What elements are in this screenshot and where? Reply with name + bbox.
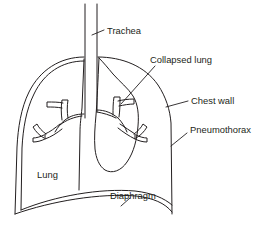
anatomy-illustration: Trachea Collapsed lung Chest wall Pneumo… — [0, 0, 265, 237]
label-trachea: Trachea — [107, 25, 142, 36]
collapsed-lung-outline — [95, 58, 139, 172]
trachea-leader — [92, 30, 104, 35]
label-lung: Lung — [37, 169, 58, 180]
left-lung-hilum — [60, 116, 82, 125]
left-lung-mediastinal-border — [79, 59, 84, 190]
label-diaphragm: Diaphragm — [110, 190, 156, 201]
left-lower-terminal-branch — [33, 135, 45, 142]
trachea-structure — [85, 4, 97, 118]
bronchial-tree-left — [33, 100, 84, 142]
pneumothorax-diagram: Trachea Collapsed lung Chest wall Pneumo… — [0, 0, 265, 237]
label-group: Trachea Collapsed lung Chest wall Pneumo… — [37, 25, 251, 201]
left-lung-structure — [60, 59, 84, 190]
label-pneumothorax: Pneumothorax — [190, 124, 251, 135]
label-collapsed-lung: Collapsed lung — [150, 54, 212, 65]
chest-wall-left-outer — [15, 57, 84, 214]
collapsed-lung-leader — [121, 66, 155, 104]
chest-wall-leader — [166, 101, 188, 107]
pneumothorax-leader — [171, 133, 187, 146]
right-upper-lobe-bronchus — [113, 97, 120, 117]
left-upper-lateral-branch — [47, 102, 63, 108]
label-chest-wall: Chest wall — [191, 95, 234, 106]
collapsed-lung-structure — [95, 58, 139, 172]
left-lower-lateral-branch — [33, 124, 46, 138]
right-lower-lateral-branch — [134, 124, 147, 138]
bronchial-tree-right — [97, 97, 147, 142]
